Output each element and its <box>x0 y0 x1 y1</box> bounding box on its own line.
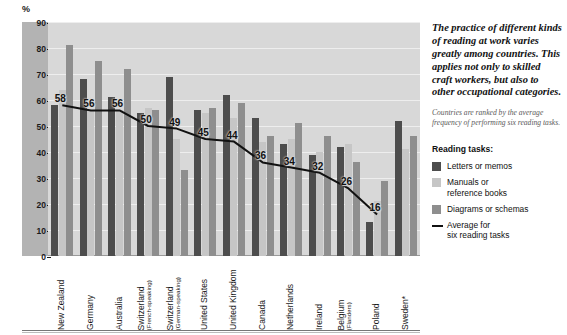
legend-item: Average forsix reading tasks <box>432 220 562 241</box>
x-axis-label: Germany <box>86 295 95 330</box>
x-axis-label-text: United Kingdom <box>228 270 238 330</box>
legend-title: Reading tasks: <box>432 144 562 154</box>
ranking-note: Countries are ranked by the average freq… <box>432 108 562 128</box>
x-axis-label: Switzerland(German-speaking) <box>165 277 180 330</box>
y-axis-tick: 80 <box>37 44 46 54</box>
legend-swatch-icon <box>432 205 441 214</box>
bar-group <box>363 22 392 256</box>
bar-group <box>134 22 163 256</box>
x-axis-label-text: Australia <box>114 297 124 330</box>
axis-rule <box>22 330 420 331</box>
average-value-label: 32 <box>312 161 323 172</box>
legend-label: Diagrams or schemas <box>447 204 528 214</box>
average-value-label: 58 <box>55 93 66 104</box>
average-value-label: 16 <box>370 202 381 213</box>
average-value-label: 34 <box>284 156 295 167</box>
bar <box>59 90 66 256</box>
y-axis-tick: 60 <box>37 96 46 106</box>
x-axis-label-text: New Zealand <box>56 280 66 330</box>
x-axis-label-text: Germany <box>85 295 95 330</box>
bar-group <box>48 22 77 256</box>
legend-line-icon <box>432 221 443 230</box>
bar <box>152 110 159 256</box>
average-value-label: 56 <box>112 98 123 109</box>
bar <box>223 95 230 256</box>
average-value-label: 36 <box>255 150 266 161</box>
bar-group <box>248 22 277 256</box>
legend-label: Average forsix reading tasks <box>447 220 509 241</box>
bar <box>345 144 352 256</box>
legend: Letters or memosManuals orreference book… <box>432 161 562 241</box>
legend-item: Letters or memos <box>432 161 562 171</box>
y-axis: 0102030405060708090 <box>22 22 48 256</box>
callout-text: The practice of different kinds of readi… <box>432 22 562 99</box>
bar <box>108 97 115 256</box>
bar-group <box>391 22 420 256</box>
bar <box>116 110 123 256</box>
bar <box>324 136 331 256</box>
sidebar: The practice of different kinds of readi… <box>432 22 562 247</box>
x-axis-label: United States <box>200 279 209 330</box>
bar-group <box>277 22 306 256</box>
bar <box>137 113 144 256</box>
y-axis-tick: 90 <box>37 18 46 28</box>
bar-group <box>105 22 134 256</box>
x-axis-label-text: Poland <box>371 304 381 330</box>
x-axis-label-text: United States <box>199 279 209 330</box>
bar-group <box>334 22 363 256</box>
plot-area: 585656504945443634322616 <box>48 22 420 256</box>
x-axis-label-sub: (French-speaking) <box>146 280 153 330</box>
x-axis-label: Canada <box>258 300 267 330</box>
average-value-label: 56 <box>83 98 94 109</box>
bar-group <box>306 22 335 256</box>
axis-rule-shadow <box>22 332 420 333</box>
bar <box>410 136 417 256</box>
y-axis-tick: 50 <box>37 122 46 132</box>
x-axis-label-text: Sweden* <box>400 296 410 330</box>
bar <box>366 222 373 256</box>
x-axis-label: Netherlands <box>286 284 295 330</box>
y-axis-unit-label: % <box>22 4 30 14</box>
x-axis-label: United Kingdom <box>229 270 238 330</box>
bar <box>166 77 173 256</box>
y-axis-tick: 10 <box>37 226 46 236</box>
bar-group <box>162 22 191 256</box>
bar <box>87 110 94 256</box>
bar <box>173 139 180 256</box>
bar <box>402 149 409 256</box>
legend-swatch-icon <box>432 178 441 187</box>
y-axis-tick: 30 <box>37 174 46 184</box>
average-value-label: 49 <box>169 117 180 128</box>
bar <box>66 45 73 256</box>
x-axis-label-text: Ireland <box>314 304 324 330</box>
y-axis-tick: 70 <box>37 70 46 80</box>
average-value-label: 50 <box>141 114 152 125</box>
y-axis-tick: 0 <box>41 252 46 262</box>
x-axis-label: Poland <box>372 304 381 330</box>
bar <box>209 108 216 256</box>
bar <box>353 162 360 256</box>
bar <box>337 147 344 256</box>
x-axis-label: New Zealand <box>57 280 66 330</box>
x-axis-label-text: Canada <box>257 300 267 330</box>
x-axis-label-text: Netherlands <box>285 284 295 330</box>
bar-group <box>191 22 220 256</box>
bar <box>267 136 274 256</box>
legend-item: Diagrams or schemas <box>432 204 562 214</box>
x-axis-label-sub: (Flanders) <box>346 299 353 330</box>
x-axis-label: Australia <box>115 297 124 330</box>
bar <box>252 118 259 256</box>
bar <box>395 121 402 256</box>
y-axis-tick: 20 <box>37 200 46 210</box>
bar <box>145 108 152 256</box>
x-axis-label: Switzerland(French-speaking) <box>137 280 152 330</box>
bar <box>295 123 302 256</box>
x-axis-label: Ireland <box>315 304 324 330</box>
legend-swatch-icon <box>432 162 441 171</box>
x-axis-label: Sweden* <box>401 296 410 330</box>
average-value-label: 44 <box>226 130 237 141</box>
x-axis-label: Belgium(Flanders) <box>337 299 352 330</box>
chart-figure: % 0102030405060708090 585656504945443634… <box>0 0 567 335</box>
bar <box>51 105 58 256</box>
bar <box>181 170 188 256</box>
